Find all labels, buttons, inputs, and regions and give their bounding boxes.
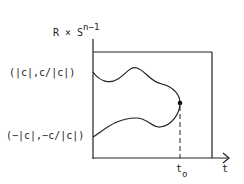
upper-curve — [93, 68, 180, 103]
y-axis-label-superscript: n−1 — [83, 22, 99, 32]
lower-curve — [93, 103, 180, 137]
t0-label-subscript: o — [182, 169, 187, 179]
y-axis-label-base: R × S — [53, 27, 83, 38]
x-axis-label: t — [222, 164, 228, 174]
upper-point-label: (|c|,c/|c|) — [9, 68, 75, 78]
junction-point — [178, 101, 183, 106]
y-axis-label: R × Sn−1 — [53, 28, 99, 38]
lower-point-label: (−|c|,−c/|c|) — [6, 131, 84, 141]
diagram-canvas — [0, 0, 244, 184]
t0-label: to — [176, 164, 187, 174]
